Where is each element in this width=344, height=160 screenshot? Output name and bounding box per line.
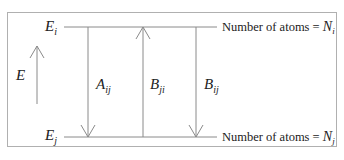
transition-aij-label: Aij bbox=[95, 76, 111, 95]
lower-population-label: Number of atoms = Nj bbox=[222, 129, 335, 146]
energy-axis-arrow-icon bbox=[30, 46, 44, 104]
transition-aij-arrow-icon bbox=[81, 27, 95, 137]
transition-bij-label: Bij bbox=[204, 76, 219, 95]
transition-bji-label: Bji bbox=[150, 76, 165, 95]
energy-level-diagram: Ei Ej E Aij Bji Bij Number of atoms = Ni… bbox=[0, 0, 344, 160]
energy-axis-label: E bbox=[15, 67, 25, 83]
lower-level-label: Ej bbox=[44, 127, 57, 146]
transition-bij-arrow-icon bbox=[189, 27, 203, 137]
upper-level-label: Ei bbox=[44, 18, 57, 37]
transition-bji-arrow-icon bbox=[136, 27, 150, 137]
upper-population-label: Number of atoms = Ni bbox=[222, 19, 335, 36]
